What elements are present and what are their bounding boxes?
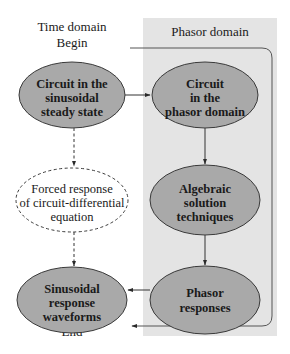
svg-text:steady state: steady state bbox=[41, 105, 104, 119]
svg-text:Forced response: Forced response bbox=[31, 182, 113, 196]
svg-text:solution: solution bbox=[184, 196, 226, 210]
node-circuit-phasor-domain: Circuit in the phasor domain bbox=[152, 62, 258, 128]
time-domain-title: Time domain bbox=[37, 19, 107, 34]
node-circuit-steady-state: Circuit in the sinusoidal steady state bbox=[19, 62, 125, 128]
svg-text:Circuit in the: Circuit in the bbox=[36, 77, 108, 91]
node-phasor-responses: Phasor responses bbox=[150, 266, 260, 334]
svg-text:waveforms: waveforms bbox=[43, 310, 101, 324]
phasor-domain-title: Phasor domain bbox=[171, 24, 249, 39]
svg-text:phasor domain: phasor domain bbox=[165, 105, 245, 119]
svg-text:techniques: techniques bbox=[177, 210, 234, 224]
begin-label: Begin bbox=[56, 35, 88, 50]
node-algebraic-solution: Algebraic solution techniques bbox=[150, 165, 260, 235]
svg-text:responses: responses bbox=[179, 301, 230, 315]
svg-text:Algebraic: Algebraic bbox=[179, 182, 232, 196]
node-sinusoidal-waveforms: Sinusoidal response waveforms bbox=[17, 267, 127, 333]
svg-text:Sinusoidal: Sinusoidal bbox=[44, 282, 100, 296]
svg-text:equation: equation bbox=[50, 210, 94, 224]
diagram-svg: Time domain Begin Phasor domain End Circ… bbox=[0, 0, 290, 354]
svg-text:Circuit: Circuit bbox=[186, 77, 225, 91]
svg-text:Phasor: Phasor bbox=[186, 286, 224, 300]
svg-text:sinusoidal: sinusoidal bbox=[45, 91, 99, 105]
svg-text:of circuit-differential: of circuit-differential bbox=[20, 196, 125, 210]
svg-text:response: response bbox=[49, 296, 96, 310]
svg-text:in the: in the bbox=[190, 91, 221, 105]
node-forced-response: Forced response of circuit-differential … bbox=[16, 168, 128, 232]
time-phasor-flow-diagram: Time domain Begin Phasor domain End Circ… bbox=[0, 0, 290, 354]
